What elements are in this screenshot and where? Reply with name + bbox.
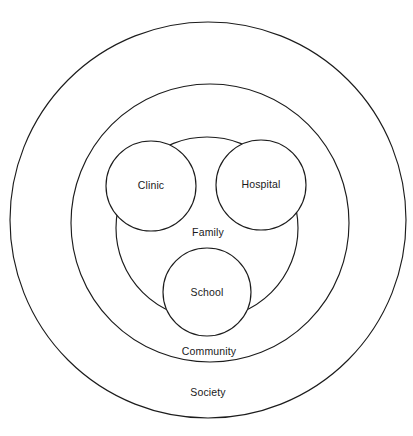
diagram-canvas: Clinic Hospital School Family Community … (0, 0, 413, 436)
label-hospital: Hospital (241, 178, 280, 190)
label-community: Community (182, 345, 237, 357)
label-family: Family (192, 226, 224, 238)
label-society: Society (190, 386, 226, 398)
label-clinic: Clinic (138, 179, 165, 191)
nested-circles-diagram: Clinic Hospital School Family Community … (0, 0, 413, 436)
label-school: School (190, 286, 223, 298)
